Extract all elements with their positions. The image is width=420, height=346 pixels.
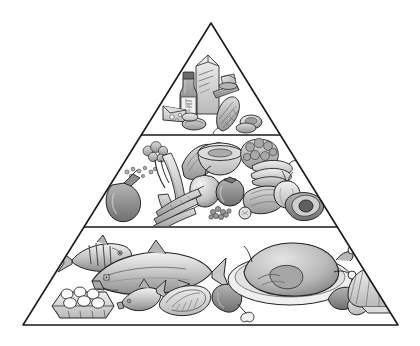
- scallop-shell: [348, 266, 410, 313]
- tomato: [216, 177, 244, 206]
- berry: [209, 206, 231, 219]
- cookie: [236, 115, 262, 133]
- broccoli: [143, 142, 169, 188]
- eggplant: [106, 170, 140, 222]
- top-tier-contents: Extra Virgin Olive Oil: [163, 55, 262, 134]
- svg-text:Oil: Oil: [187, 109, 191, 113]
- peas: [125, 166, 157, 178]
- pyramid-illustration: Extra Virgin Olive Oil: [0, 0, 420, 346]
- bread-roll: [182, 113, 206, 130]
- butter-block: [219, 74, 237, 89]
- bottom-tier-contents: [52, 235, 410, 322]
- egg-carton: [52, 287, 114, 318]
- milk-carton: [196, 55, 219, 114]
- food-pyramid-figure: Extra Virgin Olive Oil: [0, 0, 420, 346]
